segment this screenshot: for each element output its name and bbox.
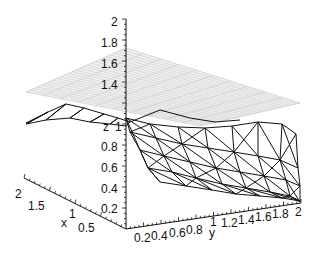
z-tick-0-6: 0.6 [101,161,118,175]
y-tick-1-2: 1.2 [221,216,238,230]
y-tick-2: 2 [295,205,302,219]
surface-plot: 2 1.8 1.6 1.4 z 1 0.8 0.6 0.4 0.2 0.2 0.… [0,0,315,256]
z-tick-labels: 2 1.8 1.6 1.4 z 1 0.8 0.6 0.4 0.2 [101,15,122,216]
x-tick-0-5: 0.5 [78,221,95,235]
z-tick-0-4: 0.4 [101,182,118,196]
z-axis-label: z [103,120,109,134]
y-tick-0-2: 0.2 [134,231,151,245]
plane-surface [26,48,300,126]
y-axis-label: y [209,226,215,240]
x-tick-1-5: 1.5 [28,199,45,213]
x-tick-labels: 2 1.5 1 x 0.5 [15,187,95,235]
y-tick-1-4: 1.4 [238,213,255,227]
x-tick-1: 1 [69,207,76,221]
x-axis-label: x [61,216,67,230]
y-tick-1-8: 1.8 [272,207,289,221]
z-tick-2: 2 [111,15,118,29]
z-tick-1-6: 1.6 [101,57,118,71]
z-tick-0-8: 0.8 [101,140,118,154]
z-tick-1-4: 1.4 [101,78,118,92]
y-tick-labels: 0.2 0.4 0.6 0.8 1 y 1.2 1.4 1.6 1.8 2 [134,205,302,245]
z-tick-0-2: 0.2 [101,202,118,216]
y-tick-0-6: 0.6 [169,226,186,240]
y-tick-0-8: 0.8 [186,223,203,237]
y-tick-0-4: 0.4 [151,229,168,243]
z-tick-1-8: 1.8 [101,36,118,50]
z-tick-1: 1 [115,120,122,134]
x-tick-2: 2 [15,187,22,201]
y-tick-1-6: 1.6 [255,210,272,224]
